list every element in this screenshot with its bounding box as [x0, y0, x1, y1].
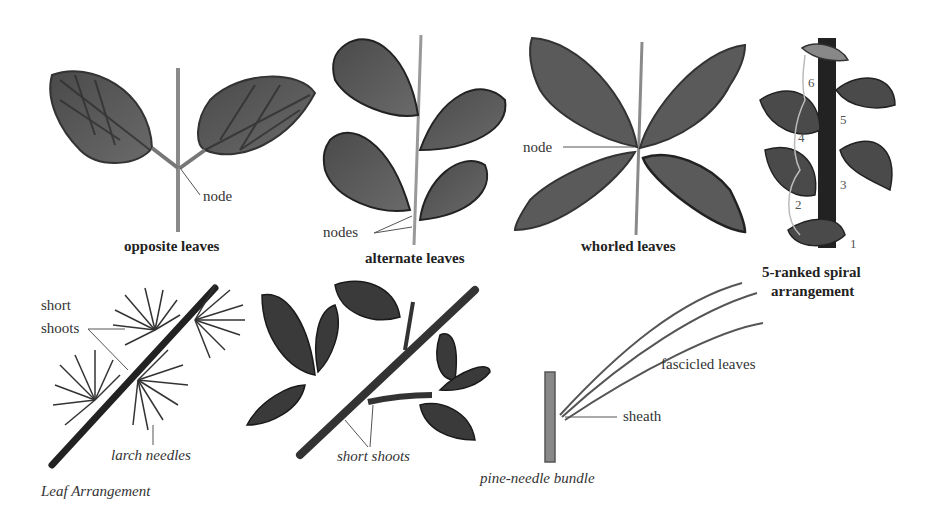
whorled-leaves-caption: whorled leaves — [581, 237, 676, 255]
spiral-number-4: 4 — [798, 130, 805, 146]
spiral-arrangement-drawing — [760, 38, 895, 248]
larch-short-label: short — [41, 297, 71, 314]
spiral-caption-line2: arrangement — [771, 282, 854, 300]
short-shoots-branch-drawing — [247, 281, 490, 455]
spiral-number-6: 6 — [808, 75, 815, 91]
larch-drawing — [52, 285, 245, 465]
alternate-leaves-caption: alternate leaves — [365, 249, 465, 267]
whorled-node-label: node — [523, 139, 552, 156]
spiral-number-1: 1 — [850, 236, 857, 252]
whorled-leaves-drawing — [515, 38, 745, 235]
short-shoots-label: short shoots — [337, 448, 410, 465]
alternate-leaves-drawing — [324, 35, 506, 245]
larch-shoots-label: shoots — [41, 320, 79, 337]
opposite-node-label: node — [203, 188, 232, 205]
spiral-number-3: 3 — [840, 177, 847, 193]
figure-title: Leaf Arrangement — [41, 483, 150, 500]
pine-bundle-caption: pine-needle bundle — [480, 470, 595, 487]
fascicled-leaves-label: fascicled leaves — [661, 356, 756, 373]
opposite-leaves-caption: opposite leaves — [124, 237, 219, 255]
spiral-caption-line1: 5-ranked spiral — [762, 263, 861, 281]
illustration-canvas — [0, 0, 934, 523]
opposite-leaves-drawing — [50, 68, 315, 232]
alternate-nodes-label: nodes — [323, 224, 358, 241]
spiral-number-2: 2 — [795, 197, 802, 213]
sheath-label: sheath — [623, 408, 661, 425]
larch-needles-label: larch needles — [111, 447, 191, 464]
spiral-number-5: 5 — [840, 112, 847, 128]
